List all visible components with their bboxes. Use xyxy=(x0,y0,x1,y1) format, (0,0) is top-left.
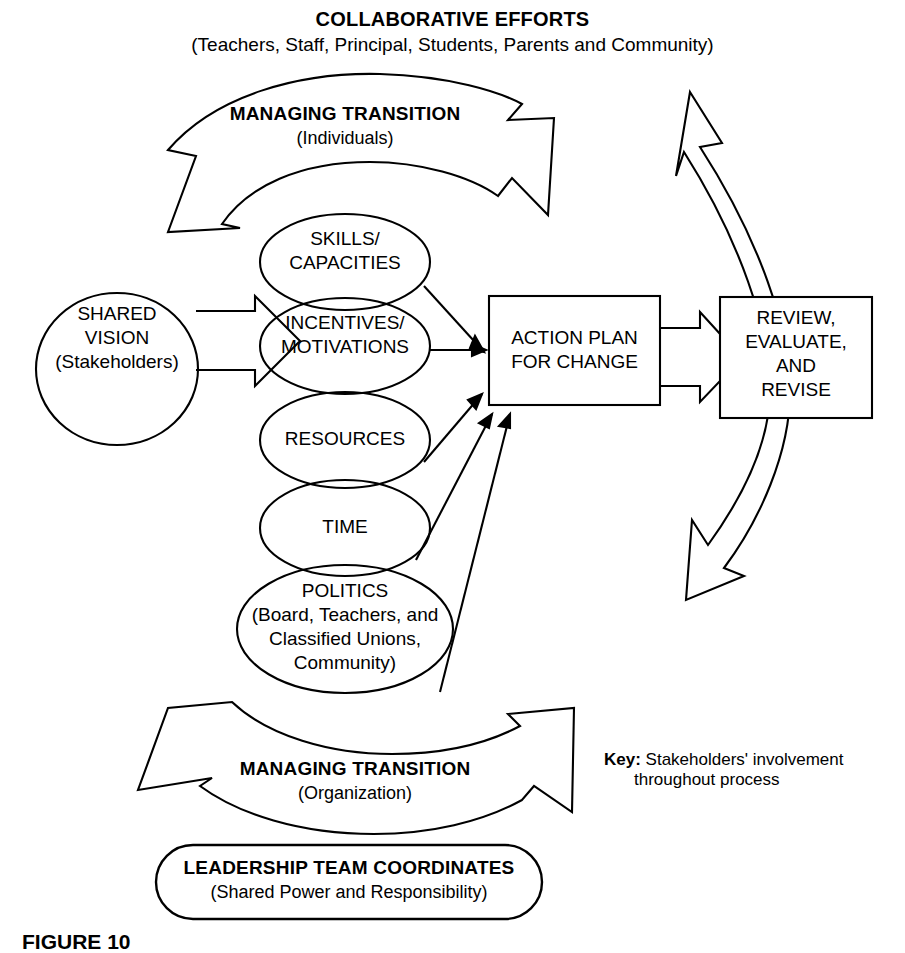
shared-vision-line3: (Stakeholders) xyxy=(27,351,207,372)
arrow-time-to-action-head xyxy=(479,414,492,428)
action-plan-line2: FOR CHANGE xyxy=(489,351,660,372)
shared-vision-line1: SHARED xyxy=(37,303,197,324)
shared-vision-line2: VISION xyxy=(37,327,197,348)
factor-label-incentives-2: MOTIVATIONS xyxy=(250,336,440,357)
review-line1: REVIEW, xyxy=(720,307,872,328)
factor-label-politics-2: (Board, Teachers, and xyxy=(225,604,465,625)
arrow-politics-to-action xyxy=(440,414,510,692)
figure-caption: FIGURE 10 xyxy=(22,930,322,953)
key-label: Key: xyxy=(604,750,641,769)
action-plan-line1: ACTION PLAN xyxy=(489,327,660,348)
bottom-arrow-title: MANAGING TRANSITION xyxy=(190,758,520,779)
top-arrow-subtitle: (Individuals) xyxy=(180,128,510,148)
key-legend: Key: Stakeholders' involvement throughou… xyxy=(604,750,904,790)
header-subtitle: (Teachers, Staff, Principal, Students, P… xyxy=(0,34,905,55)
factor-label-politics-1: POLITICS xyxy=(235,580,455,601)
review-line2: EVALUATE, xyxy=(720,331,872,352)
leadership-title: LEADERSHIP TEAM COORDINATES xyxy=(156,857,542,878)
leadership-subtitle: (Shared Power and Responsibility) xyxy=(156,882,542,902)
factor-label-politics-4: Community) xyxy=(240,652,450,673)
factor-label-politics-3: Classified Unions, xyxy=(230,628,460,649)
top-curved-arrow-icon xyxy=(168,74,554,232)
factor-label-incentives-1: INCENTIVES/ xyxy=(250,312,440,333)
factor-label-time-1: TIME xyxy=(265,516,425,537)
factor-label-skills-1: SKILLS/ xyxy=(260,228,430,249)
review-line4: REVISE xyxy=(720,379,872,400)
factor-label-resources-1: RESOURCES xyxy=(255,428,435,449)
key-line2: throughout process xyxy=(604,770,904,790)
key-line1: Stakeholders' involvement xyxy=(646,750,844,769)
arrow-politics-to-action-head xyxy=(499,414,510,428)
top-arrow-title: MANAGING TRANSITION xyxy=(180,103,510,124)
bottom-arrow-subtitle: (Organization) xyxy=(190,783,520,803)
review-line3: AND xyxy=(720,355,872,376)
factor-label-skills-2: CAPACITIES xyxy=(260,252,430,273)
header-title: COLLABORATIVE EFFORTS xyxy=(0,8,905,30)
